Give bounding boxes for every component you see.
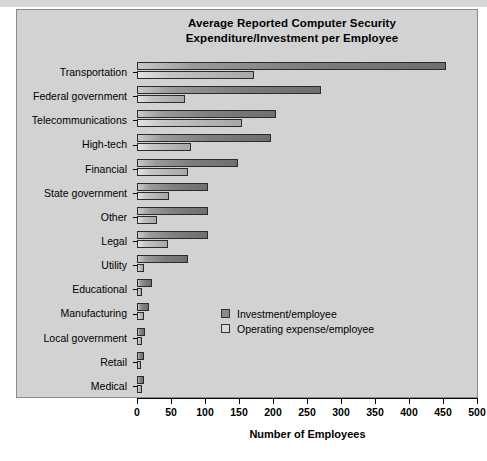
bar-operating-expense bbox=[137, 119, 242, 127]
x-axis-title: Number of Employees bbox=[137, 428, 478, 440]
legend-swatch-operating-expense-icon bbox=[221, 324, 230, 333]
chart-title-line-2: Expenditure/Investment per Employee bbox=[120, 31, 464, 46]
x-axis-tick bbox=[205, 398, 206, 404]
x-axis-tick bbox=[137, 398, 138, 404]
bar-group bbox=[137, 60, 477, 84]
x-axis-tick bbox=[477, 398, 478, 404]
bar-investment bbox=[137, 352, 144, 360]
bar-investment bbox=[137, 134, 271, 142]
chart-title-line-1: Average Reported Computer Security bbox=[120, 16, 464, 31]
chart-figure: Average Reported Computer Security Expen… bbox=[0, 0, 487, 461]
bar-operating-expense bbox=[137, 71, 254, 79]
bar-investment bbox=[137, 255, 188, 263]
legend-item-investment: Investment/employee bbox=[221, 306, 374, 321]
bar-group bbox=[137, 108, 477, 132]
x-axis-tick bbox=[341, 398, 342, 404]
plot-area bbox=[137, 60, 477, 398]
x-axis-tick bbox=[375, 398, 376, 404]
bar-operating-expense bbox=[137, 143, 191, 151]
legend-item-operating-expense: Operating expense/employee bbox=[221, 321, 374, 336]
x-axis-tick bbox=[443, 398, 444, 404]
x-axis-tick bbox=[409, 398, 410, 404]
category-label: Manufacturing bbox=[0, 301, 133, 325]
category-label: Financial bbox=[0, 157, 133, 181]
bar-operating-expense bbox=[137, 264, 144, 272]
x-axis-tick bbox=[239, 398, 240, 404]
legend-label-investment: Investment/employee bbox=[237, 308, 337, 320]
bar-group bbox=[137, 229, 477, 253]
x-axis-tick-label: 500 bbox=[457, 406, 487, 418]
bar-operating-expense bbox=[137, 385, 142, 393]
category-label: Medical bbox=[0, 374, 133, 398]
category-label: Utility bbox=[0, 253, 133, 277]
bar-group bbox=[137, 157, 477, 181]
bar-group bbox=[137, 84, 477, 108]
x-axis-tick bbox=[273, 398, 274, 404]
bar-group bbox=[137, 350, 477, 374]
bar-group bbox=[137, 253, 477, 277]
bar-investment bbox=[137, 159, 238, 167]
category-label: High-tech bbox=[0, 132, 133, 156]
bar-group bbox=[137, 374, 477, 398]
bar-investment bbox=[137, 110, 276, 118]
bar-operating-expense bbox=[137, 312, 144, 320]
bar-investment bbox=[137, 376, 144, 384]
category-label: Telecommunications bbox=[0, 108, 133, 132]
category-axis-labels: TransportationFederal governmentTelecomm… bbox=[0, 60, 133, 398]
bar-investment bbox=[137, 303, 149, 311]
bar-group bbox=[137, 181, 477, 205]
bar-investment bbox=[137, 328, 145, 336]
category-label: Federal government bbox=[0, 84, 133, 108]
bar-investment bbox=[137, 62, 446, 70]
category-label: State government bbox=[0, 181, 133, 205]
category-label: Retail bbox=[0, 350, 133, 374]
bar-investment bbox=[137, 279, 152, 287]
bar-investment bbox=[137, 231, 208, 239]
x-axis-tick bbox=[171, 398, 172, 404]
bar-operating-expense bbox=[137, 288, 142, 296]
bar-group bbox=[137, 132, 477, 156]
category-label: Transportation bbox=[0, 60, 133, 84]
bar-operating-expense bbox=[137, 216, 157, 224]
bar-investment bbox=[137, 86, 321, 94]
bar-operating-expense bbox=[137, 192, 169, 200]
bar-operating-expense bbox=[137, 168, 188, 176]
category-label: Legal bbox=[0, 229, 133, 253]
x-axis-tick bbox=[307, 398, 308, 404]
category-label: Educational bbox=[0, 277, 133, 301]
bar-operating-expense bbox=[137, 95, 185, 103]
bar-group bbox=[137, 277, 477, 301]
legend-label-operating-expense: Operating expense/employee bbox=[237, 323, 374, 335]
bar-operating-expense bbox=[137, 240, 168, 248]
legend-swatch-investment-icon bbox=[221, 309, 230, 318]
chart-legend: Investment/employee Operating expense/em… bbox=[221, 306, 374, 336]
bar-investment bbox=[137, 207, 208, 215]
chart-title: Average Reported Computer Security Expen… bbox=[120, 16, 464, 46]
category-label: Local government bbox=[0, 326, 133, 350]
bar-group bbox=[137, 205, 477, 229]
category-label: Other bbox=[0, 205, 133, 229]
bar-operating-expense bbox=[137, 361, 141, 369]
bar-investment bbox=[137, 183, 208, 191]
bar-operating-expense bbox=[137, 337, 142, 345]
